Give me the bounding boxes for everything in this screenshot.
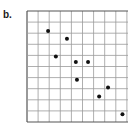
data-point	[97, 94, 101, 98]
grid-lines	[27, 11, 128, 122]
data-points	[46, 29, 124, 116]
data-point	[74, 60, 78, 64]
data-point	[46, 29, 50, 33]
scatter-plot	[0, 0, 128, 130]
data-point	[75, 78, 79, 82]
data-point	[65, 37, 69, 41]
data-point	[106, 86, 110, 90]
data-point	[54, 55, 58, 59]
data-point	[86, 60, 90, 64]
data-point	[120, 112, 124, 116]
